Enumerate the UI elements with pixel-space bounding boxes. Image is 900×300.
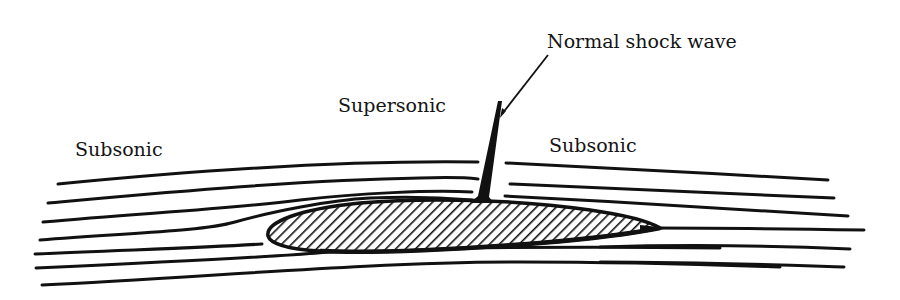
streamline-d4 (655, 228, 864, 230)
streamline-d2 (510, 184, 834, 198)
normal-shock-wave (470, 101, 502, 203)
airfoil (268, 200, 668, 252)
shock-leader-line (500, 55, 548, 118)
streamline-1 (58, 162, 478, 184)
label-normal-shock-wave: Normal shock wave (547, 32, 737, 51)
streamline-d1 (506, 163, 828, 180)
streamline-5 (35, 244, 262, 254)
label-supersonic: Supersonic (338, 96, 446, 115)
label-downstream-subsonic: Subsonic (549, 136, 637, 155)
streamline-7 (42, 262, 780, 285)
airfoil-shock-diagram: Subsonic Supersonic Subsonic Normal shoc… (0, 0, 900, 300)
label-upstream-subsonic: Subsonic (75, 140, 163, 159)
